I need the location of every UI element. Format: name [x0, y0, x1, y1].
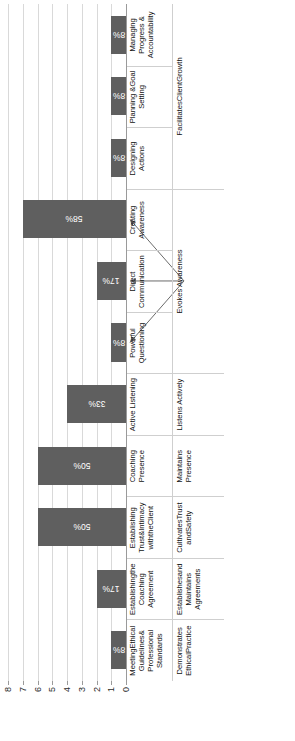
- group-label-cell: Listens Actively: [172, 373, 224, 435]
- tick-mark-1: [111, 681, 112, 685]
- group-label: Maintains Presence: [176, 450, 194, 483]
- group-label: Establishesand Maintains Agreements: [176, 563, 203, 615]
- y-tick-label: 8: [3, 687, 13, 739]
- category-label-cell: Direct Communication: [127, 250, 173, 312]
- category-label-cell: Active Listening: [127, 373, 173, 435]
- category-label-cell: Managing Progress & Accountability: [127, 4, 173, 66]
- y-tick-label: 7: [18, 687, 28, 739]
- chart-canvas: Number of participants 012345678 8%17%50…: [0, 0, 295, 741]
- y-tick-label: 1: [106, 687, 116, 739]
- y-tick-label: 0: [121, 687, 131, 739]
- category-label: Establishing Trust&Intimacy withtheClien…: [129, 503, 156, 553]
- tick-mark-2: [97, 681, 98, 685]
- category-label: Establishingthe Coaching Agreement: [129, 563, 156, 615]
- bar-group: 17%: [8, 570, 126, 608]
- group-label-cell: Maintains Presence: [172, 435, 224, 497]
- bar-value-label: 8%: [112, 645, 124, 655]
- bar-group: 8%: [8, 16, 126, 54]
- y-tick-label: 3: [77, 687, 87, 739]
- group-label: Demonstrates EthicalPractice: [176, 626, 194, 676]
- y-tick-label: 2: [92, 687, 102, 739]
- bar-group: 8%: [8, 77, 126, 115]
- category-label: Creating Awareness: [129, 201, 147, 238]
- group-label: Listens Actively: [176, 379, 185, 431]
- bar-group: 8%: [8, 631, 126, 669]
- category-label: Managing Progress & Accountability: [129, 12, 156, 59]
- bar-group: 17%: [8, 262, 126, 300]
- category-label-cell: MeetingEthical Guidelines& Professional …: [127, 619, 173, 681]
- bar-group: 50%: [8, 508, 126, 546]
- category-label-cell: Establishing Trust&Intimacy withtheClien…: [127, 496, 173, 558]
- bar-value-label: 17%: [103, 584, 120, 594]
- category-label: Active Listening: [129, 378, 138, 431]
- bar-value-label: 8%: [112, 91, 124, 101]
- bar-group: 8%: [8, 139, 126, 177]
- bar-value-label: 8%: [112, 30, 124, 40]
- bar-group: 50%: [8, 447, 126, 485]
- y-tick-label: 5: [47, 687, 57, 739]
- group-label-cell: CultivatesTrust andSafety: [172, 496, 224, 558]
- category-label: Planning &Goal Setting: [129, 71, 147, 124]
- bar-value-label: 50%: [73, 522, 90, 532]
- category-axis-labels: MeetingEthical Guidelines& Professional …: [126, 4, 173, 681]
- category-label: Coaching Presence: [129, 450, 147, 482]
- tick-mark-4: [67, 681, 68, 685]
- y-tick-label: 6: [33, 687, 43, 739]
- category-label: Powerful Questioning: [129, 323, 147, 364]
- category-label-cell: Planning &Goal Setting: [127, 66, 173, 128]
- bar-value-label: 17%: [103, 276, 120, 286]
- tick-mark-5: [52, 681, 53, 685]
- plot-area: Number of participants 012345678 8%17%50…: [0, 0, 295, 741]
- competency-group-labels: Demonstrates EthicalPracticeEstablishesa…: [172, 4, 224, 681]
- bar-value-label: 50%: [73, 461, 90, 471]
- group-label-cell: FacilitatesClientGrowth: [172, 4, 224, 189]
- tick-mark-7: [23, 681, 24, 685]
- group-label: FacilitatesClientGrowth: [176, 57, 185, 135]
- bars-layer: 8%17%50%50%33%8%17%58%8%8%8%: [8, 4, 126, 681]
- tick-mark-3: [82, 681, 83, 685]
- category-label-cell: Coaching Presence: [127, 435, 173, 497]
- group-label-cell: Demonstrates EthicalPractice: [172, 619, 224, 681]
- tick-mark-0: [126, 681, 127, 685]
- category-label: Designing Actions: [129, 142, 147, 176]
- group-label-cell: Evokes Awareness: [172, 189, 224, 374]
- category-label-cell: Creating Awareness: [127, 189, 173, 251]
- bar-group: 33%: [8, 385, 126, 423]
- y-tick-label: 4: [62, 687, 72, 739]
- category-label: Direct Communication: [129, 255, 147, 308]
- group-label-cell: Establishesand Maintains Agreements: [172, 558, 224, 620]
- group-label: Evokes Awareness: [176, 250, 185, 314]
- bar-group: 58%: [8, 200, 126, 238]
- category-label-cell: Powerful Questioning: [127, 312, 173, 374]
- category-label: MeetingEthical Guidelines& Professional …: [129, 626, 165, 676]
- bar-value-label: 8%: [112, 338, 124, 348]
- bar-group: 8%: [8, 323, 126, 361]
- bar-value-label: 33%: [88, 399, 105, 409]
- bar-value-label: 58%: [66, 214, 83, 224]
- tick-mark-6: [38, 681, 39, 685]
- rotated-figure: Number of participants 012345678 8%17%50…: [0, 0, 295, 741]
- category-label-cell: Establishingthe Coaching Agreement: [127, 558, 173, 620]
- tick-mark-8: [8, 681, 9, 685]
- category-label-cell: Designing Actions: [127, 127, 173, 189]
- bar-value-label: 8%: [112, 153, 124, 163]
- group-label: CultivatesTrust andSafety: [176, 503, 194, 553]
